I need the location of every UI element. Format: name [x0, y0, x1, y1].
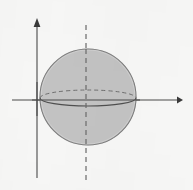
x-axis-arrowhead-icon	[177, 97, 183, 104]
y-axis-arrowhead-icon	[34, 18, 41, 27]
sphere-diagram-canvas	[0, 0, 193, 190]
sphere-diagram-figure	[0, 0, 193, 190]
